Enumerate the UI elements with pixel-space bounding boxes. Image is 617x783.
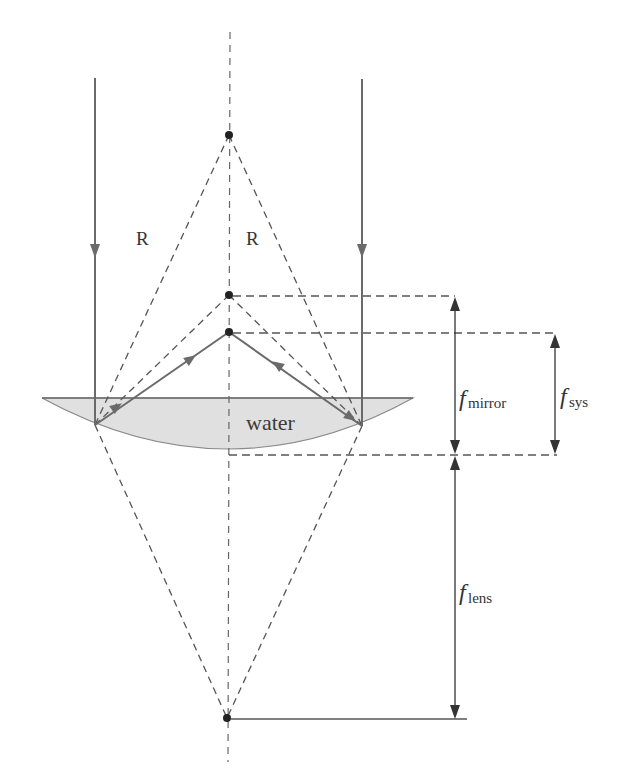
- lens-focus-line-right: [227, 426, 362, 718]
- radius-label-left: R: [136, 228, 149, 249]
- optics-diagram: R R water f mirror f sys f lens: [0, 0, 617, 783]
- arrow-down-icon: [450, 440, 460, 454]
- center-of-curvature-dot: [225, 131, 233, 139]
- optical-axis: [228, 32, 230, 762]
- f-mirror-subscript: mirror: [468, 395, 506, 411]
- radius-label-right: R: [246, 228, 259, 249]
- system-focus-dot: [225, 328, 233, 336]
- arrow-down-icon: [550, 440, 560, 454]
- mirror-focus-dot: [225, 291, 233, 299]
- arrow-icon: [183, 351, 199, 366]
- diagram-canvas: R R water f mirror f sys f lens: [0, 0, 617, 783]
- arrow-down-icon: [357, 244, 367, 258]
- arrow-up-icon: [550, 334, 560, 348]
- arrow-down-icon: [450, 705, 460, 719]
- radius-line-right: [229, 135, 362, 426]
- f-lens-subscript: lens: [468, 590, 492, 606]
- f-sys-subscript: sys: [569, 394, 588, 410]
- radius-line-left: [95, 135, 229, 425]
- arrow-up-icon: [450, 456, 460, 470]
- water-label: water: [246, 410, 296, 435]
- lens-focus-line-left: [95, 425, 227, 718]
- arrow-down-icon: [90, 244, 100, 258]
- lens-focus-dot: [223, 714, 231, 722]
- arrow-up-icon: [450, 297, 460, 311]
